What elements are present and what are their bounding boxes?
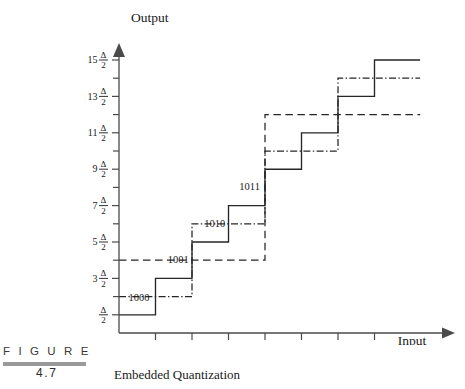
figure-word-label: F I G U R E [3,345,91,357]
series-coarse-quantizer [119,115,420,261]
figure-rule-divider [3,362,86,366]
y-tick-numerator: Δ [101,50,107,60]
codeword-label: 1000 [129,292,150,303]
y-tick-coefficient: 11 [88,127,98,138]
figure-caption-block: F I G U R E 4.7 Embedded Quantization [0,341,465,389]
x-axis-arrowhead [442,328,455,339]
y-tick-coefficient: 15 [88,54,98,65]
figure-caption-text: Embedded Quantization [114,367,240,383]
y-tick-numerator: Δ [101,86,107,96]
y-tick-denominator: 2 [101,279,106,289]
y-tick-coefficient: 3 [93,273,98,284]
codeword-label: 1010 [204,218,225,229]
series-medium-quantizer [119,78,420,296]
y-tick-denominator: 2 [101,315,106,325]
embedded-quantization-plot: OutputInputΔ2Δ23Δ25Δ27Δ29Δ211Δ213Δ215Δ2Δ… [0,0,465,345]
y-tick-coefficient: 13 [88,91,98,102]
y-tick-numerator: Δ [101,232,107,242]
y-tick-denominator: 2 [101,169,106,179]
y-tick-numerator: Δ [101,268,107,278]
y-axis-arrowhead [113,43,125,57]
y-tick-coefficient: 5 [93,236,98,247]
y-tick-numerator: Δ [101,305,107,315]
y-tick-coefficient: 7 [93,200,98,211]
figure-root: OutputInputΔ2Δ23Δ25Δ27Δ29Δ211Δ213Δ215Δ2Δ… [0,0,465,389]
codeword-label: 1001 [168,254,189,265]
y-tick-denominator: 2 [101,206,106,216]
y-axis-title: Output [131,10,169,25]
y-tick-denominator: 2 [101,97,106,107]
series-fine-quantizer [119,60,420,315]
codeword-label: 1011 [239,181,260,192]
y-tick-coefficient: 9 [93,163,98,174]
y-tick-denominator: 2 [101,133,106,143]
y-tick-numerator: Δ [101,195,107,205]
y-tick-denominator: 2 [101,60,106,70]
figure-number: 4.7 [36,366,57,380]
y-tick-denominator: 2 [101,242,106,252]
y-tick-numerator: Δ [101,159,107,169]
y-tick-numerator: Δ [101,123,107,133]
